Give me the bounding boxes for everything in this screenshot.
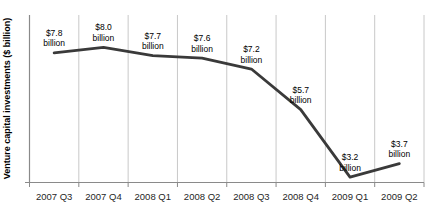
x-axis-label: 2009 Q2 [367, 191, 431, 202]
data-label: $3.7 billion [367, 139, 431, 160]
data-label: $5.7 billion [269, 85, 333, 106]
data-label: $7.2 billion [219, 44, 283, 65]
venture-capital-line-chart: Venture capital investments ($ billion) … [0, 0, 441, 218]
y-axis-title: Venture capital investments ($ billion) [2, 13, 15, 185]
